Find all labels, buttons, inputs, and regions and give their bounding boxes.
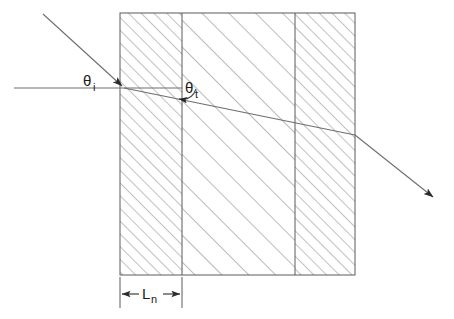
length-subscript: n: [151, 293, 157, 305]
theta-transmitted-symbol: θ: [185, 79, 193, 96]
length-symbol: L: [142, 285, 150, 302]
exit-ray: [355, 135, 433, 197]
slab-body: [120, 13, 355, 275]
theta-transmitted-subscript: t: [195, 88, 198, 100]
layer-right: [295, 13, 355, 275]
theta-incident-subscript: i: [93, 81, 95, 93]
refraction-diagram: θ i θ t L n: [0, 0, 454, 319]
layer-middle: [182, 13, 295, 275]
layer-left: [120, 13, 182, 275]
diagram-canvas: θ i θ t L n: [0, 0, 454, 319]
label-length-Ln: L n: [142, 285, 157, 305]
label-theta-incident: θ i: [83, 72, 95, 93]
theta-incident-symbol: θ: [83, 72, 91, 89]
